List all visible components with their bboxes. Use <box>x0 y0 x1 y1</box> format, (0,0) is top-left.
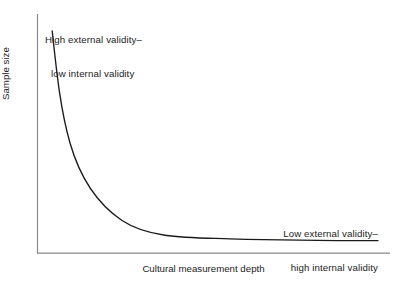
annotation-top-left-line2: low internal validity <box>45 68 142 79</box>
x-axis-label: Cultural measurement depth <box>37 263 370 274</box>
annotation-bottom-right-line1: Low external validity– <box>228 228 378 239</box>
annotation-low-external-high-internal: Low external validity– high internal val… <box>228 206 378 287</box>
y-axis-label-text: Sample size <box>0 47 11 100</box>
chart-figure: High external validity– low internal val… <box>0 0 402 287</box>
annotation-top-left-line1: High external validity– <box>45 34 142 45</box>
annotation-high-external-low-internal: High external validity– low internal val… <box>45 12 142 102</box>
y-axis-label: Sample size <box>0 10 11 100</box>
